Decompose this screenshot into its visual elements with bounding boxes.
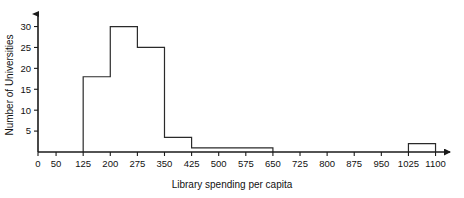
x-tick-label: 275 <box>129 158 145 169</box>
x-tick-label: 500 <box>211 158 227 169</box>
x-tick-label: 200 <box>102 158 118 169</box>
x-tick-label: 0 <box>35 158 40 169</box>
y-tick-label: 10 <box>20 105 31 116</box>
y-tick-label: 25 <box>20 42 31 53</box>
x-axis-title: Library spending per capita <box>172 179 293 190</box>
x-tick-label: 650 <box>265 158 281 169</box>
x-tick-label: 950 <box>373 158 389 169</box>
x-tick-label: 575 <box>238 158 254 169</box>
x-tick-label: 425 <box>184 158 200 169</box>
chart-background <box>0 0 464 198</box>
x-tick-label: 1100 <box>425 158 445 169</box>
y-tick-label: 5 <box>26 125 31 136</box>
y-tick-label: 20 <box>20 63 31 74</box>
x-tick-label: 125 <box>75 158 91 169</box>
x-tick-label: 800 <box>319 158 335 169</box>
x-tick-label: 350 <box>157 158 173 169</box>
x-tick-label: 50 <box>51 158 62 169</box>
chart-canvas: 0501252002753504255005756507258008759501… <box>0 0 464 198</box>
histogram-chart: 0501252002753504255005756507258008759501… <box>0 0 464 198</box>
x-tick-label: 1025 <box>398 158 419 169</box>
x-tick-label: 725 <box>292 158 308 169</box>
y-tick-label: 30 <box>20 21 31 32</box>
x-tick-label: 875 <box>346 158 362 169</box>
y-tick-label: 15 <box>20 84 31 95</box>
y-axis-title: Number of Universities <box>4 34 15 135</box>
